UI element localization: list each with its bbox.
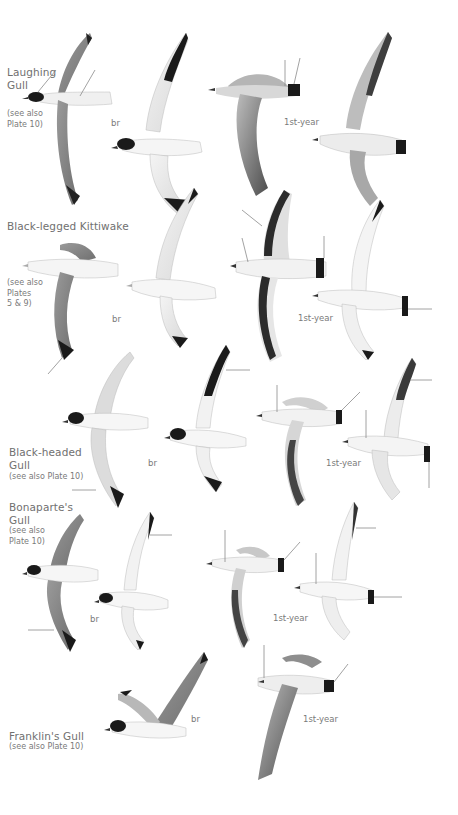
laughing-gull-first-year-ventral <box>312 32 406 206</box>
laughing-gull-adult-dorsal <box>22 33 112 205</box>
kittiwake-first-year-ventral <box>312 200 432 360</box>
laughing-gull-first-year-side <box>208 58 300 196</box>
gull-illustrations <box>0 0 458 815</box>
bonapartes-gull-first-year-ventral <box>294 502 402 640</box>
bonapartes-gull-adult-dorsal <box>22 514 98 652</box>
bonapartes-gull-first-year-side <box>206 530 300 648</box>
kittiwake-adult-breeding <box>126 188 216 348</box>
field-guide-plate: Laughing Gull (see also Plate 10) br 1st… <box>0 0 458 815</box>
kittiwake-first-year-dorsal <box>230 190 326 362</box>
black-headed-gull-first-year-side <box>256 385 360 506</box>
franklins-gull-first-year <box>258 645 348 780</box>
franklins-gull-adult-breeding <box>104 652 208 738</box>
bonapartes-gull-adult-breeding <box>94 512 172 650</box>
black-headed-gull-first-year-ventral <box>342 358 432 500</box>
black-headed-gull-adult-dorsal <box>62 352 148 508</box>
laughing-gull-adult-breeding <box>111 33 202 214</box>
kittiwake-adult-dorsal <box>22 243 118 374</box>
black-headed-gull-adult-breeding <box>164 345 250 492</box>
